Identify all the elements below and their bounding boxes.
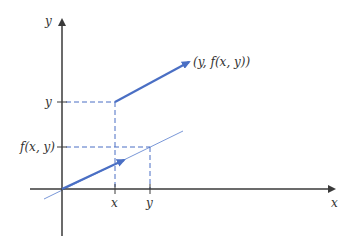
x-axis-label: x — [331, 196, 338, 210]
x-tick-label-y: y — [145, 196, 153, 210]
y-tick-label-fxy: f(x, y) — [19, 140, 55, 154]
x-tick-label-x: x — [111, 196, 118, 210]
upper-vector-label: (y, f(x, y)) — [193, 55, 250, 69]
y-axis-label: y — [44, 14, 52, 28]
y-tick-label-y: y — [44, 95, 52, 109]
dashed-guides — [66, 102, 150, 189]
diagram-canvas: y x y f(x, y) x y (y, f(x, y)) — [0, 0, 359, 248]
vector-upper — [115, 62, 189, 102]
tick-marks — [57, 102, 150, 194]
